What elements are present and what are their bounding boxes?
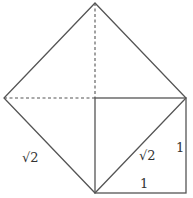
label-sqrt2-left: √2: [22, 150, 39, 165]
label-sqrt2-diagonal: √2: [139, 148, 156, 163]
label-side-right: 1: [176, 140, 184, 155]
label-side-bottom: 1: [140, 176, 148, 191]
diagram-canvas: √2 √2 1 1: [0, 0, 193, 198]
